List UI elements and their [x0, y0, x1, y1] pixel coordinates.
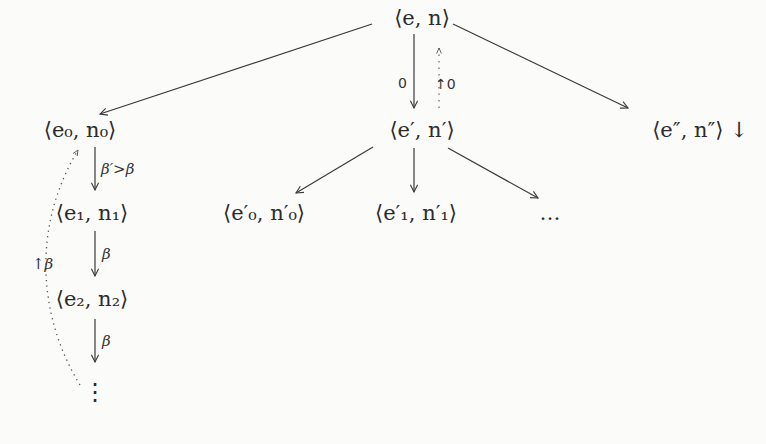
label-middle-back-to-root: ↑0 [435, 77, 456, 91]
node-right: ⟨e″, n″⟩ ↓ [652, 120, 748, 141]
node-middle-child-more: … [540, 203, 561, 224]
label-chain1-to-chain2: β [102, 247, 111, 262]
node-left: ⟨e₀, n₀⟩ [44, 120, 117, 141]
edge-middle-to-more [448, 148, 538, 198]
label-left-to-chain1: β′>β [101, 162, 134, 177]
node-middle-child-1: ⟨e′₁, n′₁⟩ [375, 203, 457, 224]
edge-middle-to-child0 [296, 147, 373, 193]
label-chain-back-to-left: ↑β [32, 257, 53, 272]
edge-root-to-right [453, 24, 628, 108]
node-middle: ⟨e′, n′⟩ [389, 120, 454, 141]
node-chain-2: ⟨e₂, n₂⟩ [56, 289, 129, 310]
node-chain-more: ⋮ [83, 380, 107, 404]
node-chain-1: ⟨e₁, n₁⟩ [56, 203, 129, 224]
label-chain2-to-more: β [102, 334, 111, 349]
label-root-to-middle: 0 [398, 76, 407, 90]
search-tree-diagram: ⟨e, n⟩ ⟨e₀, n₀⟩ ⟨e′, n′⟩ ⟨e″, n″⟩ ↓ ⟨e′₀… [0, 0, 766, 444]
edge-root-to-left [100, 24, 372, 114]
node-root: ⟨e, n⟩ [394, 8, 450, 29]
node-middle-child-0: ⟨e′₀, n′₀⟩ [223, 203, 305, 224]
